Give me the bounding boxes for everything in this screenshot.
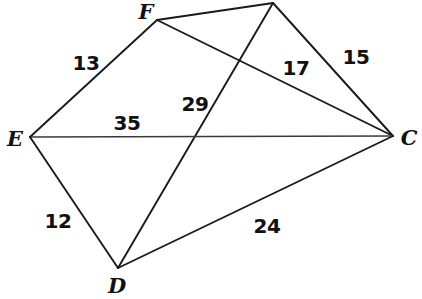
edge-length-E-F: 13 — [72, 53, 99, 73]
edge-length-E-C: 35 — [113, 113, 140, 133]
vertex-label-E: E — [7, 128, 23, 149]
vertex-label-D: D — [108, 275, 126, 296]
vertex-label-C: C — [401, 127, 418, 148]
edge-E-D — [30, 137, 118, 268]
geometry-figure: F E C D 13 17 15 29 35 12 24 — [0, 0, 422, 299]
edge-length-D-G: 29 — [181, 94, 208, 114]
edge-length-F-C: 17 — [282, 58, 309, 78]
vertex-label-F: F — [139, 1, 154, 22]
edge-D-C — [118, 136, 393, 268]
edge-F-G — [157, 3, 273, 20]
edge-D-G — [118, 3, 273, 268]
edge-length-G-C: 15 — [342, 47, 369, 67]
edge-length-D-C: 24 — [253, 216, 280, 236]
edge-F-C — [157, 20, 393, 136]
edge-E-C — [30, 136, 393, 137]
edge-length-E-D: 12 — [44, 211, 71, 231]
